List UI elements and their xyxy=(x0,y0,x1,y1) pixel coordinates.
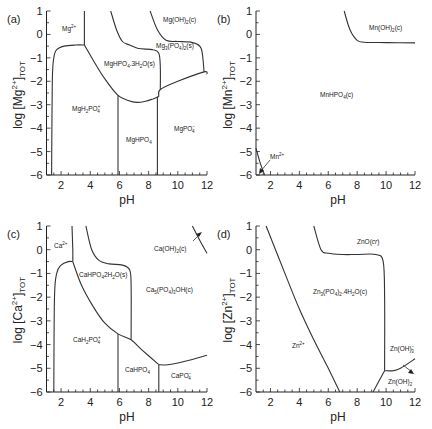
y-tick-label: −2 xyxy=(30,291,43,303)
region-label-ca5po4oh: Ca5(PO4)3OH(c) xyxy=(146,286,193,295)
y-tick-label: −6 xyxy=(30,386,43,398)
panel-b-mn: (b) 10−1−2−3−4−5−624681012 pH log [Mn2+]… xyxy=(217,5,421,207)
region-label-mgpo4: MgPO−4 xyxy=(174,124,195,134)
boundary-line xyxy=(84,45,158,102)
x-tick-label: 6 xyxy=(116,179,122,191)
x-tick-label: 12 xyxy=(409,396,421,408)
x-tick-label: 2 xyxy=(267,396,273,408)
y-axis-label: log [Mg2+]TOT xyxy=(10,61,27,129)
boundary-line xyxy=(266,226,340,392)
y-tick-label: −2 xyxy=(30,75,43,87)
panel-label: (d) xyxy=(217,228,230,240)
x-tick-label: 8 xyxy=(354,396,360,408)
region-label-cahpo4-2h2o: CaHPO42H2O(s) xyxy=(79,271,127,280)
y-tick-label: −3 xyxy=(30,315,43,327)
y-tick-label: −4 xyxy=(30,339,43,351)
region-label-znoh3: Zn(OH)−3 xyxy=(390,344,415,354)
y-tick-label: 1 xyxy=(246,5,252,17)
region-label-capo4: CaPO−4 xyxy=(171,371,192,381)
region-label-mnoh2: Mn(OH)2(c) xyxy=(369,24,402,33)
x-tick-label: 8 xyxy=(146,396,152,408)
y-tick-label: 1 xyxy=(36,220,42,232)
region-label-mghpo4: MgHPO4 xyxy=(126,136,152,145)
x-tick-label: 6 xyxy=(325,179,331,191)
region-label-mg2: Mg2+ xyxy=(62,24,77,33)
panel-d-zn: (d) 10−1−2−3−4−5−624681012 pH log [Zn2+]… xyxy=(217,220,421,424)
panel-c-ca: (c) 10−1−2−3−4−5−624681012 pH log [Ca2+]… xyxy=(7,220,213,424)
x-tick-label: 4 xyxy=(296,179,302,191)
x-axis-label: pH xyxy=(330,410,345,424)
y-tick-label: −4 xyxy=(239,339,252,351)
panel-label: (c) xyxy=(7,228,20,240)
region-label-zn2: Zn2+ xyxy=(292,341,305,349)
y-tick-label: 1 xyxy=(246,220,252,232)
y-tick-label: −5 xyxy=(239,362,252,374)
boundary-line xyxy=(159,355,207,365)
y-tick-label: 0 xyxy=(36,244,42,256)
region-label-cah2po4: CaH2PO+4 xyxy=(73,335,101,345)
x-tick-label: 4 xyxy=(87,179,93,191)
region-label-cahpo4: CaHPO4 xyxy=(125,366,150,375)
x-tick-label: 2 xyxy=(58,179,64,191)
y-tick-label: −1 xyxy=(30,52,43,64)
y-tick-label: −1 xyxy=(30,267,43,279)
y-tick-label: 1 xyxy=(36,5,42,17)
boundary-line xyxy=(111,11,161,90)
y-tick-label: −4 xyxy=(30,122,43,134)
boundary-line xyxy=(86,226,131,340)
x-tick-label: 4 xyxy=(296,396,302,408)
y-axis-label: log [Mn2+]TOT xyxy=(220,61,237,129)
region-label-zn3po4: Zn3(PO4)2.4H2O(c) xyxy=(313,288,367,297)
region-label-mn2: Mn2+ xyxy=(270,152,285,160)
x-tick-label: 12 xyxy=(409,179,421,191)
x-axis-label: pH xyxy=(119,193,134,207)
x-tick-label: 10 xyxy=(172,179,184,191)
boundary-curves xyxy=(266,226,415,392)
y-tick-label: −3 xyxy=(239,99,252,111)
y-tick-label: −4 xyxy=(239,122,252,134)
x-tick-label: 4 xyxy=(87,396,93,408)
y-tick-label: 0 xyxy=(246,28,252,40)
y-tick-label: −6 xyxy=(239,169,252,181)
x-tick-label: 2 xyxy=(58,396,64,408)
phase-diagram-figure: (a) 10−1−2−3−4−5−624681012 pH log [Mg2+]… xyxy=(0,0,432,429)
x-axis-label: pH xyxy=(330,193,345,207)
panel-label: (b) xyxy=(217,13,230,25)
y-tick-label: 0 xyxy=(36,28,42,40)
y-tick-label: −1 xyxy=(239,267,252,279)
boundary-line xyxy=(314,226,385,371)
boundary-line xyxy=(373,371,385,392)
y-tick-label: −2 xyxy=(239,291,252,303)
y-tick-label: −5 xyxy=(30,146,43,158)
boundary-line xyxy=(385,359,415,371)
region-label-mgh2po4: MgH2PO+4 xyxy=(72,104,101,114)
x-tick-label: 12 xyxy=(201,179,213,191)
x-tick-label: 6 xyxy=(116,396,122,408)
y-tick-label: −3 xyxy=(239,315,252,327)
arrowhead-icon xyxy=(196,232,202,237)
boundary-curves xyxy=(52,11,208,175)
panel-label: (a) xyxy=(7,13,20,25)
x-tick-label: 10 xyxy=(172,396,184,408)
region-label-caoh2: Ca(OH)2(c) xyxy=(154,245,187,254)
x-tick-label: 6 xyxy=(325,396,331,408)
panel-a-mg: (a) 10−1−2−3−4−5−624681012 pH log [Mg2+]… xyxy=(7,5,213,207)
x-tick-label: 8 xyxy=(146,179,152,191)
y-tick-label: −2 xyxy=(239,75,252,87)
y-tick-label: −3 xyxy=(30,99,43,111)
x-tick-label: 8 xyxy=(354,179,360,191)
region-label-mgoh2: Mg(OH)2(c) xyxy=(163,16,196,25)
y-tick-label: −5 xyxy=(30,362,43,374)
y-tick-label: −6 xyxy=(30,169,43,181)
x-axis-label: pH xyxy=(119,410,134,424)
y-tick-label: −6 xyxy=(239,386,252,398)
boundary-line xyxy=(72,226,73,262)
y-tick-label: 0 xyxy=(246,244,252,256)
x-tick-label: 2 xyxy=(267,179,273,191)
x-tick-label: 12 xyxy=(201,396,213,408)
region-label-mg3po4: Mg3(PO4)2(s) xyxy=(156,42,194,51)
x-tick-label: 10 xyxy=(380,396,392,408)
region-label-mnhpo4: MnHPO4(c) xyxy=(320,91,353,100)
boundary-line xyxy=(158,72,207,97)
region-label-zno: ZnO(cr) xyxy=(357,238,379,246)
